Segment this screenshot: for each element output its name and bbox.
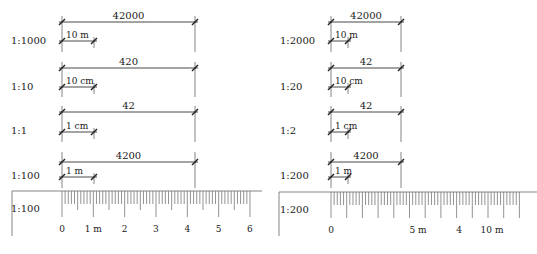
dimension-value: 4200 [353, 150, 378, 161]
scale-row: 1:2421 cm [280, 100, 404, 142]
scale-row: 1:204210 cm [280, 56, 404, 97]
sub-dimension-label: 10 m [335, 30, 358, 40]
scale-label: 1:1 [11, 125, 27, 136]
scale-label: 1:100 [11, 170, 40, 181]
ruler-tick-label: 0 [328, 225, 334, 235]
sub-dimension-label: 10 m [66, 30, 89, 40]
sub-dimension-label: 1 cm [335, 121, 358, 131]
scale-label: 1:10 [11, 81, 33, 92]
ruler-tick-label: 0 [59, 224, 65, 234]
scale-row: 1:20004200010 m [280, 10, 404, 52]
dimension-value: 420 [119, 56, 138, 67]
ruler-tick-label: 1 m [85, 224, 103, 234]
ruler-tick-label: 3 [153, 224, 159, 234]
ruler-tick-label: 6 [247, 224, 253, 234]
scale-row: 1:10042001 m [11, 150, 198, 188]
sub-dimension-label: 1 m [335, 166, 353, 176]
ruler-scale-label: 1:200 [280, 204, 309, 215]
dimension-value: 42 [122, 100, 135, 111]
scale-drawing-diagram: 1:10004200010 m1:1042010 cm1:1421 cm1:10… [0, 0, 537, 254]
ruler-tick-label: 10 m [481, 225, 504, 235]
ruler-tick-label: 4 [456, 225, 462, 235]
ruler-scale-label: 1:100 [11, 203, 40, 214]
scale-label: 1:200 [280, 170, 309, 181]
dimension-value: 4200 [116, 150, 141, 161]
ruler-tick-label: 5 [216, 224, 222, 234]
scale-label: 1:2000 [280, 35, 315, 46]
panel-right: 1:20004200010 m1:204210 cm1:2421 cm1:200… [279, 10, 537, 236]
scale-ruler: 1:20005 m410 m [279, 192, 537, 236]
scale-label: 1:20 [280, 81, 302, 92]
scale-label: 1:2 [280, 125, 296, 136]
dimension-value: 42 [360, 100, 373, 111]
scale-row: 1:20042001 m [280, 150, 404, 188]
panel-left: 1:10004200010 m1:1042010 cm1:1421 cm1:10… [11, 10, 262, 236]
sub-dimension-label: 10 cm [335, 76, 363, 86]
scale-row: 1:10004200010 m [11, 10, 198, 52]
dimension-value: 42000 [350, 10, 382, 21]
dimension-value: 42000 [113, 10, 145, 21]
ruler-tick-label: 4 [184, 224, 190, 234]
dimension-value: 42 [360, 56, 373, 67]
scale-label: 1:1000 [11, 35, 46, 46]
scale-ruler: 1:10001 m23456 [11, 191, 262, 236]
ruler-tick-label: 5 m [409, 225, 427, 235]
scale-row: 1:1421 cm [11, 100, 198, 142]
sub-dimension-label: 1 m [66, 166, 84, 176]
ruler-tick-label: 2 [122, 224, 128, 234]
scale-row: 1:1042010 cm [11, 56, 198, 97]
sub-dimension-label: 10 cm [66, 76, 94, 86]
sub-dimension-label: 1 cm [66, 121, 89, 131]
